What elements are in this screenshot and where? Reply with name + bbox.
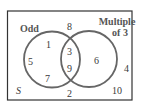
element-2: 2 xyxy=(67,89,72,99)
element-1: 1 xyxy=(46,40,51,50)
universe-label: S xyxy=(16,86,21,96)
odd-set-label: Odd xyxy=(20,24,39,34)
multiple-of-3-set-label: Multiple of 3 xyxy=(98,17,136,38)
element-8: 8 xyxy=(67,22,72,32)
element-3: 3 xyxy=(67,47,72,57)
element-7: 7 xyxy=(45,74,50,84)
element-5: 5 xyxy=(28,57,33,67)
element-9: 9 xyxy=(67,64,72,74)
multiple-of-3-circle xyxy=(61,31,117,87)
multiple-of-3-label-line1: Multiple xyxy=(98,17,136,27)
multiple-of-3-label-line2: of 3 xyxy=(98,28,136,38)
element-4: 4 xyxy=(124,64,129,74)
element-10: 10 xyxy=(112,86,122,96)
element-6: 6 xyxy=(94,56,99,66)
